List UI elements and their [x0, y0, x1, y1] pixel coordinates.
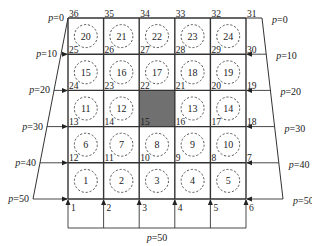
- element-label: 2: [119, 175, 124, 186]
- node-label: 28: [176, 45, 186, 55]
- fem-grid-diagram: 2021222324151617181911121314678910123453…: [0, 0, 312, 246]
- element-label: 3: [155, 175, 160, 186]
- element-label: 24: [223, 31, 233, 42]
- node-label: 1: [71, 203, 76, 213]
- node-label: 27: [140, 45, 150, 55]
- node-label: 19: [247, 81, 257, 91]
- node-label: 18: [247, 117, 257, 127]
- node-label: 4: [178, 203, 183, 213]
- element-label: 22: [152, 31, 162, 42]
- node-label: 23: [105, 81, 115, 91]
- element-label: 20: [81, 31, 91, 42]
- node-label: 22: [140, 81, 150, 91]
- right-pressure-label: p=20: [279, 86, 301, 97]
- node-label: 14: [105, 117, 115, 127]
- node-label: 20: [211, 81, 221, 91]
- node-label: 8: [211, 153, 216, 163]
- node-label: 25: [69, 45, 79, 55]
- left-boundary-slant: [33, 18, 68, 199]
- left-pressure-label: p=10: [35, 48, 57, 59]
- node-label: 29: [211, 45, 221, 55]
- node-label: 5: [213, 203, 218, 213]
- element-label: 13: [188, 103, 198, 114]
- left-pressure-label: p=50: [7, 193, 29, 204]
- bottom-pressure-label: p=50: [146, 232, 168, 243]
- right-pressure-label: p=40: [288, 159, 310, 170]
- node-label: 33: [176, 9, 186, 19]
- element-label: 5: [226, 175, 231, 186]
- left-pressure-label: p=30: [21, 121, 43, 132]
- element-label: 9: [190, 139, 195, 150]
- element-label: 8: [155, 139, 160, 150]
- node-label: 34: [140, 9, 150, 19]
- element-label: 14: [223, 103, 233, 114]
- node-label: 30: [247, 45, 257, 55]
- node-label: 2: [107, 203, 112, 213]
- node-label: 32: [211, 9, 221, 19]
- node-label: 26: [105, 45, 115, 55]
- element-label: 18: [188, 67, 198, 78]
- right-pressure-label: p=0: [271, 14, 288, 25]
- node-label: 6: [249, 203, 254, 213]
- element-label: 21: [116, 31, 126, 42]
- element-label: 7: [119, 139, 124, 150]
- node-label: 24: [69, 81, 79, 91]
- right-pressure-label: p=50: [292, 195, 312, 206]
- node-label: 7: [247, 153, 252, 163]
- node-label: 21: [176, 81, 186, 91]
- right-boundary-slant: [262, 18, 283, 199]
- element-label: 15: [81, 67, 91, 78]
- element-label: 19: [223, 67, 233, 78]
- right-pressure-label: p=10: [275, 50, 297, 61]
- left-pressure-label: p=20: [28, 84, 50, 95]
- node-label: 13: [69, 117, 79, 127]
- element-label: 4: [190, 175, 195, 186]
- element-label: 6: [83, 139, 88, 150]
- element-label: 23: [188, 31, 198, 42]
- element-label: 12: [116, 103, 126, 114]
- element-label: 10: [223, 139, 233, 150]
- node-label: 31: [247, 9, 257, 19]
- node-label: 9: [176, 153, 181, 163]
- element-label: 16: [116, 67, 126, 78]
- node-label: 36: [69, 9, 79, 19]
- node-label: 16: [176, 117, 186, 127]
- left-pressure-label: p=40: [14, 157, 36, 168]
- left-pressure-label: p=0: [47, 12, 64, 23]
- node-label: 11: [105, 153, 114, 163]
- element-label: 1: [83, 175, 88, 186]
- node-label: 12: [69, 153, 79, 163]
- node-label: 35: [105, 9, 115, 19]
- element-label: 17: [152, 67, 162, 78]
- node-label: 15: [140, 117, 150, 127]
- node-label: 17: [211, 117, 221, 127]
- right-pressure-label: p=30: [284, 123, 306, 134]
- node-label: 10: [140, 153, 150, 163]
- node-label: 3: [142, 203, 147, 213]
- element-label: 11: [81, 103, 91, 114]
